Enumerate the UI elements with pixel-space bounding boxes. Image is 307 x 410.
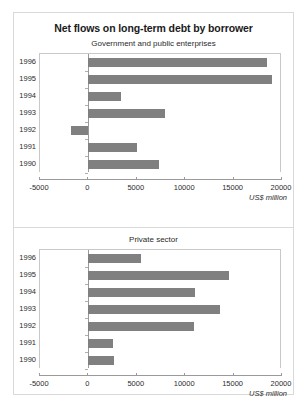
bar bbox=[88, 339, 112, 348]
bar bbox=[88, 271, 228, 280]
bar bbox=[88, 92, 121, 101]
y-tick-mark bbox=[85, 88, 88, 89]
y-axis-label: 1996 bbox=[10, 253, 36, 262]
bar bbox=[88, 305, 220, 314]
axis-units-label: US$ million bbox=[249, 193, 287, 202]
panel-divider bbox=[14, 227, 293, 228]
x-tick-mark bbox=[136, 373, 137, 376]
x-tick-mark bbox=[233, 177, 234, 180]
x-tick-mark bbox=[184, 373, 185, 376]
y-tick-mark bbox=[85, 105, 88, 106]
bar bbox=[71, 126, 88, 135]
x-tick-mark bbox=[281, 177, 282, 180]
x-axis-tick-label: 15000 bbox=[213, 379, 253, 388]
y-tick-mark bbox=[85, 173, 88, 174]
axis-units-label: US$ million bbox=[249, 389, 287, 398]
y-tick-mark bbox=[85, 318, 88, 319]
y-axis-label: 1990 bbox=[10, 159, 36, 168]
x-axis-tick-label: 5000 bbox=[116, 379, 156, 388]
x-axis-line bbox=[39, 179, 281, 180]
bar bbox=[88, 160, 159, 169]
plot-area bbox=[39, 53, 281, 172]
x-axis-tick-label: 20000 bbox=[261, 183, 301, 192]
y-tick-mark bbox=[85, 156, 88, 157]
bar bbox=[88, 356, 113, 365]
y-axis-label: 1996 bbox=[10, 57, 36, 66]
y-tick-mark bbox=[85, 369, 88, 370]
y-tick-mark bbox=[85, 284, 88, 285]
panel-title: Private sector bbox=[14, 235, 293, 244]
y-tick-mark bbox=[85, 267, 88, 268]
page-title: Net flows on long-term debt by borrower bbox=[14, 22, 293, 34]
x-axis-tick-label: 10000 bbox=[164, 183, 204, 192]
x-tick-mark bbox=[233, 373, 234, 376]
bar bbox=[88, 254, 140, 263]
bar bbox=[88, 109, 164, 118]
y-axis-label: 1992 bbox=[10, 321, 36, 330]
x-axis-tick-label: 0 bbox=[67, 379, 107, 388]
y-tick-mark bbox=[85, 301, 88, 302]
x-tick-mark bbox=[184, 177, 185, 180]
chart-panel-government: Government and public enterprises 199619… bbox=[14, 39, 293, 209]
y-axis-label: 1993 bbox=[10, 304, 36, 313]
chart-figure: Net flows on long-term debt by borrower … bbox=[13, 12, 294, 395]
y-axis-label: 1994 bbox=[10, 287, 36, 296]
y-tick-mark bbox=[85, 139, 88, 140]
x-tick-mark bbox=[136, 177, 137, 180]
chart-panel-private: Private sector 1996199519941993199219911… bbox=[14, 235, 293, 395]
bar bbox=[88, 143, 136, 152]
bar bbox=[88, 322, 194, 331]
y-tick-mark bbox=[85, 122, 88, 123]
y-axis-label: 1991 bbox=[10, 338, 36, 347]
x-axis-tick-label: 10000 bbox=[164, 379, 204, 388]
y-tick-mark bbox=[85, 352, 88, 353]
y-axis-label: 1995 bbox=[10, 74, 36, 83]
plot-area bbox=[39, 249, 281, 368]
x-tick-mark bbox=[87, 373, 88, 376]
y-axis-label: 1995 bbox=[10, 270, 36, 279]
x-axis-tick-label: 5000 bbox=[116, 183, 156, 192]
y-axis-label: 1991 bbox=[10, 142, 36, 151]
y-tick-mark bbox=[85, 71, 88, 72]
x-axis-line bbox=[39, 375, 281, 376]
x-axis-tick-label: -5000 bbox=[19, 183, 59, 192]
x-axis-tick-label: 0 bbox=[67, 183, 107, 192]
y-axis-label: 1993 bbox=[10, 108, 36, 117]
y-axis-label: 1994 bbox=[10, 91, 36, 100]
y-axis-label: 1992 bbox=[10, 125, 36, 134]
x-tick-mark bbox=[39, 373, 40, 376]
bar bbox=[88, 58, 266, 67]
x-tick-mark bbox=[39, 177, 40, 180]
x-axis-tick-label: -5000 bbox=[19, 379, 59, 388]
x-axis-tick-label: 20000 bbox=[261, 379, 301, 388]
panel-title: Government and public enterprises bbox=[14, 39, 293, 48]
bar bbox=[88, 75, 272, 84]
y-tick-mark bbox=[85, 335, 88, 336]
x-tick-mark bbox=[87, 177, 88, 180]
x-axis-tick-label: 15000 bbox=[213, 183, 253, 192]
x-tick-mark bbox=[281, 373, 282, 376]
y-axis-label: 1990 bbox=[10, 355, 36, 364]
bar bbox=[88, 288, 194, 297]
